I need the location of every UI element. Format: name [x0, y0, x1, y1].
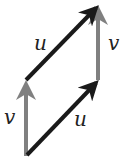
- parallelogram-diagram: u v v u: [0, 0, 133, 165]
- label-u-top: u: [34, 31, 47, 55]
- label-u-bottom: u: [74, 107, 87, 131]
- label-v-right: v: [108, 31, 120, 55]
- label-v-left: v: [4, 105, 16, 129]
